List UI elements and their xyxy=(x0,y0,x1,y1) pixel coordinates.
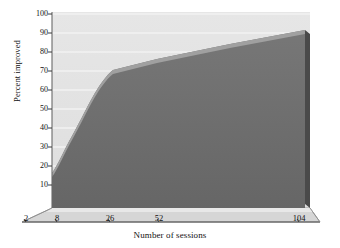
x-tick-52: 52 xyxy=(155,213,164,223)
x-tick-26: 26 xyxy=(106,213,115,223)
y-tick-marks xyxy=(48,14,52,185)
area-side-face xyxy=(305,30,310,208)
x-tick-2: 2 xyxy=(24,213,28,223)
floor-highlight xyxy=(46,208,313,212)
x-tick-8: 8 xyxy=(55,213,59,223)
chart-figure: Percent improved 100 90 80 70 60 50 40 3… xyxy=(0,0,340,248)
chart-canvas xyxy=(0,0,340,248)
x-tick-104: 104 xyxy=(293,213,306,223)
x-axis-label: Number of sessions xyxy=(0,230,340,240)
